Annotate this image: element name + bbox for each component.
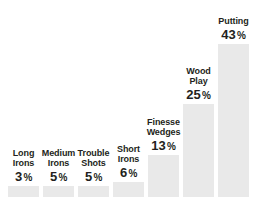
bar-value-number: 25 — [186, 87, 200, 102]
percent-sign: % — [200, 90, 210, 101]
bar-value-number: 43 — [221, 27, 235, 42]
bar-rect-long-irons[interactable] — [8, 186, 39, 197]
bar-group-finesse-wedges[interactable]: Finesse Wedges 13% — [148, 155, 179, 197]
bar-rect-trouble-shots[interactable] — [78, 186, 109, 197]
bar-value-label: 43% — [207, 27, 261, 44]
chart-plot-area: Long Irons 3% Medium Irons 5% Trouble Sh… — [0, 0, 278, 209]
bar-group-short-irons[interactable]: Short Irons 6% — [113, 182, 144, 197]
percent-sign: % — [165, 141, 175, 152]
bar-rect-finesse-wedges[interactable] — [148, 155, 179, 197]
bar-group-long-irons[interactable]: Long Irons 3% — [8, 186, 39, 197]
percent-sign: % — [127, 168, 137, 179]
bar-group-wood-play[interactable]: Wood Play 25% — [183, 104, 214, 197]
bar-rect-medium-irons[interactable] — [43, 186, 74, 197]
bar-value-number: 13 — [151, 138, 165, 153]
bar-label-putting: Putting 43% — [207, 16, 261, 44]
bar-group-putting[interactable]: Putting 43% — [218, 44, 249, 197]
bar-category-line: Putting — [207, 16, 261, 27]
bar-rect-putting[interactable] — [218, 44, 249, 197]
bar-rect-wood-play[interactable] — [183, 104, 214, 197]
bar-group-trouble-shots[interactable]: Trouble Shots 5% — [78, 186, 109, 197]
bar-rect-short-irons[interactable] — [113, 182, 144, 197]
percent-sign: % — [235, 30, 245, 41]
bar-group-medium-irons[interactable]: Medium Irons 5% — [43, 186, 74, 197]
bar-chart: Long Irons 3% Medium Irons 5% Trouble Sh… — [0, 0, 278, 209]
